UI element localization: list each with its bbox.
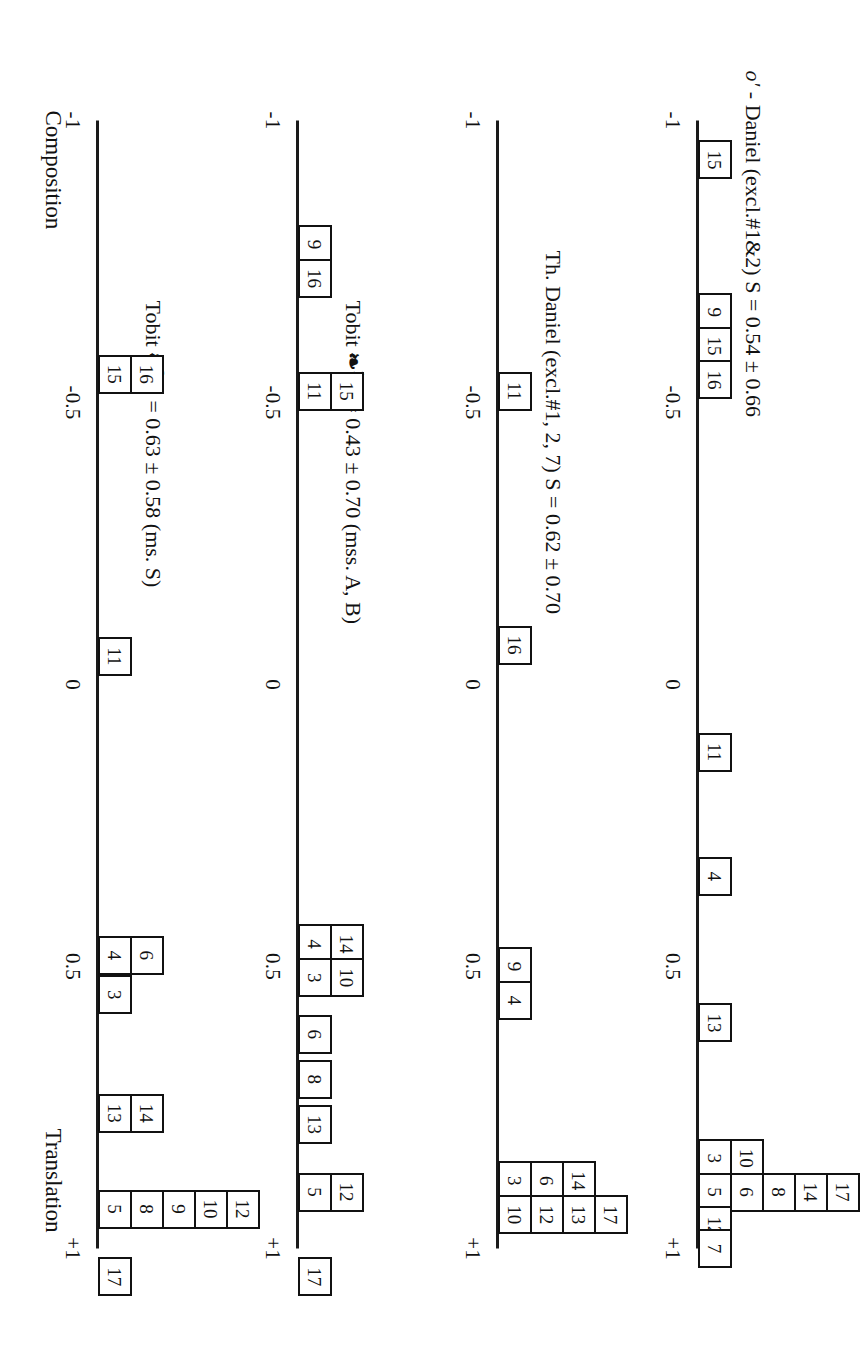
data-stack: 15 bbox=[698, 326, 730, 365]
data-stack: 17 bbox=[298, 1257, 330, 1296]
axis-tick-label: 0.5 bbox=[460, 953, 485, 980]
data-stack: 8 bbox=[298, 1059, 330, 1098]
data-cell: 13 bbox=[562, 1195, 596, 1234]
axis-tick-label: +1 bbox=[60, 1237, 85, 1260]
data-stack: 1516 bbox=[98, 354, 162, 393]
panel-title-rest: - Daniel (excl.#1&2) S = 0.54 ± 0.66 bbox=[741, 91, 766, 416]
data-stack: 11 bbox=[498, 371, 530, 410]
axis-tick-label: -1 bbox=[260, 111, 285, 129]
data-cell: 12 bbox=[226, 1189, 260, 1228]
chart-panel-2: -1-0.500.5+1Th. Daniel (excl.#1, 2, 7) S… bbox=[444, 0, 640, 1369]
data-cell: 4 bbox=[698, 856, 732, 895]
axis-tick-label: 0.5 bbox=[260, 953, 285, 980]
data-cell: 14 bbox=[794, 1172, 828, 1211]
axis-tick-label: -0.5 bbox=[660, 385, 685, 419]
data-cell: 7 bbox=[698, 1229, 732, 1268]
axis-line bbox=[696, 120, 699, 1248]
axis-tick-label: 0 bbox=[660, 679, 685, 690]
data-stack: 414 bbox=[298, 924, 362, 963]
data-cell: 11 bbox=[498, 371, 532, 410]
data-cell: 12 bbox=[330, 1172, 364, 1211]
figure-rotation-wrapper: -1-0.500.5+1o′ - Daniel (excl.#1&2) S = … bbox=[0, 0, 866, 1369]
data-stack: 3614 bbox=[498, 1161, 594, 1200]
data-stack: 15 bbox=[698, 140, 730, 179]
axis-tick-label: -0.5 bbox=[60, 385, 85, 419]
data-cell: 8 bbox=[298, 1059, 332, 1098]
data-cell: 15 bbox=[98, 354, 132, 393]
axis-tick-label: -0.5 bbox=[460, 385, 485, 419]
data-stack: 7 bbox=[698, 1229, 730, 1268]
data-cell: 3 bbox=[698, 1138, 732, 1177]
data-stack: 6 bbox=[298, 1014, 330, 1053]
data-cell: 16 bbox=[298, 258, 332, 297]
axis-tick-label: +1 bbox=[660, 1237, 685, 1260]
axis-tick-label: 0 bbox=[60, 679, 85, 690]
axis-line bbox=[496, 120, 499, 1248]
data-stack: 4 bbox=[698, 856, 730, 895]
data-cell: 11 bbox=[98, 636, 132, 675]
panel-title: Tobit ❧1 S = 0.43 ± 0.70 (mss. A, B) bbox=[340, 300, 366, 624]
data-cell: 5 bbox=[698, 1172, 732, 1211]
axis-end-label-composition: Composition bbox=[40, 110, 66, 229]
axis-line bbox=[96, 120, 99, 1248]
data-stack: 512 bbox=[298, 1172, 362, 1211]
data-cell: 17 bbox=[594, 1195, 628, 1234]
data-cell: 13 bbox=[298, 1104, 332, 1143]
data-cell: 5 bbox=[98, 1189, 132, 1228]
data-stack: 9 bbox=[298, 225, 330, 264]
data-stack: 13 bbox=[298, 1104, 330, 1143]
figure-stage: -1-0.500.5+1o′ - Daniel (excl.#1&2) S = … bbox=[0, 0, 866, 1369]
axis-end-label-translation: Translation bbox=[40, 1128, 66, 1232]
data-stack: 11 bbox=[98, 636, 130, 675]
panel-title-rest: S = 0.63 ± 0.58 (ms. S) bbox=[141, 377, 166, 587]
data-stack: 310 bbox=[298, 958, 362, 997]
data-stack: 9 bbox=[698, 292, 730, 331]
data-cell: 3 bbox=[498, 1161, 532, 1200]
data-cell: 15 bbox=[330, 371, 364, 410]
data-cell: 9 bbox=[162, 1189, 196, 1228]
data-cell: 11 bbox=[698, 732, 732, 771]
axis-tick-label: 0 bbox=[260, 679, 285, 690]
panel-title-prefix: Tobit bbox=[141, 300, 166, 352]
data-cell: 4 bbox=[298, 924, 332, 963]
axis-tick-label: 0.5 bbox=[660, 953, 685, 980]
data-cell: 14 bbox=[562, 1161, 596, 1200]
data-cell: 9 bbox=[298, 225, 332, 264]
data-cell: 17 bbox=[298, 1257, 332, 1296]
data-cell: 14 bbox=[130, 1093, 164, 1132]
axis-tick-label: 0 bbox=[460, 679, 485, 690]
data-cell: 16 bbox=[130, 354, 164, 393]
data-stack: 5891012 bbox=[98, 1189, 258, 1228]
data-cell: 6 bbox=[730, 1172, 764, 1211]
data-cell: 6 bbox=[530, 1161, 564, 1200]
data-stack: 46 bbox=[98, 935, 162, 974]
axis-tick-label: -0.5 bbox=[260, 385, 285, 419]
data-stack: 3 bbox=[98, 975, 130, 1014]
panel-title: Th. Daniel (excl.#1, 2, 7) S = 0.62 ± 0.… bbox=[540, 250, 566, 614]
data-stack: 16 bbox=[498, 625, 530, 664]
data-cell: 15 bbox=[698, 326, 732, 365]
data-cell: 15 bbox=[698, 140, 732, 179]
data-cell: 4 bbox=[98, 935, 132, 974]
axis-tick-label: -1 bbox=[460, 111, 485, 129]
data-cell: 13 bbox=[698, 1003, 732, 1042]
chart-panel-4: -1-0.500.5+1Tobit ❧2 S = 0.63 ± 0.58 (ms… bbox=[44, 0, 240, 1369]
panel-title-rest: S = 0.43 ± 0.70 (mss. A, B) bbox=[341, 377, 366, 624]
data-stack: 11 bbox=[698, 732, 730, 771]
chart-panel-1: -1-0.500.5+1o′ - Daniel (excl.#1&2) S = … bbox=[644, 0, 840, 1369]
data-stack: 1115 bbox=[298, 371, 362, 410]
panel-title-mark-icon: ❧ bbox=[341, 352, 366, 370]
data-cell: 10 bbox=[498, 1195, 532, 1234]
data-stack: 16 bbox=[698, 360, 730, 399]
data-stack: 16 bbox=[298, 258, 330, 297]
data-cell: 14 bbox=[330, 924, 364, 963]
data-cell: 10 bbox=[330, 958, 364, 997]
data-cell: 8 bbox=[762, 1172, 796, 1211]
data-cell: 10 bbox=[730, 1138, 764, 1177]
data-stack: 9 bbox=[498, 947, 530, 986]
panel-title: o′ - Daniel (excl.#1&2) S = 0.54 ± 0.66 bbox=[740, 70, 766, 416]
axis-tick-label: +1 bbox=[460, 1237, 485, 1260]
data-cell: 8 bbox=[130, 1189, 164, 1228]
data-cell: 6 bbox=[130, 935, 164, 974]
data-cell: 3 bbox=[298, 958, 332, 997]
